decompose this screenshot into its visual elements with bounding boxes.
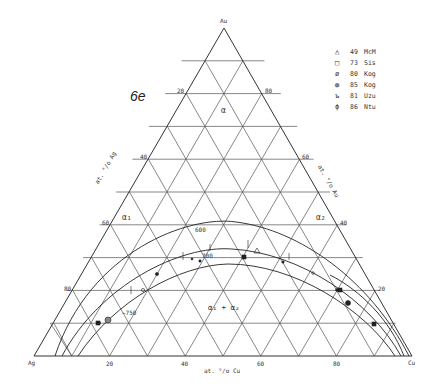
triangle-marker-icon: △	[332, 48, 342, 56]
barred-diamond-marker-icon: ϕ	[332, 103, 342, 111]
square-marker	[242, 255, 246, 259]
legend-author: Sis	[364, 59, 376, 67]
legend-ref: 86	[350, 103, 364, 111]
legend-author: Ntu	[364, 103, 376, 111]
vertex-ag-label: Ag	[28, 360, 35, 366]
legend-ref: 73	[350, 59, 364, 67]
left-tick: 80	[64, 286, 71, 292]
bottom-tick: 60	[257, 361, 264, 367]
isotherm-600-label: 600	[195, 227, 206, 233]
legend-item: □ 73 Sis	[332, 57, 376, 68]
bottom-tick: 20	[106, 361, 113, 367]
filled-circle-marker	[105, 317, 111, 323]
phase-alpha1-label: α₁	[122, 214, 132, 222]
legend-ref: 80	[350, 70, 364, 78]
grid-diag-up	[53, 323, 393, 356]
legend-item: △ 49 McM	[332, 46, 376, 57]
square-marker	[372, 322, 376, 326]
legend: △ 49 McM □ 73 Sis ø 80 Kog ◍ 85 Kog ъ 81…	[332, 46, 376, 112]
vertex-cu-label: Cu	[408, 360, 415, 366]
left-tick: 60	[102, 220, 109, 226]
isotherm-600	[55, 221, 409, 356]
legend-author: Kog	[364, 70, 376, 78]
slashed-circle-marker	[155, 272, 158, 275]
slashed-circle-marker	[141, 288, 144, 291]
phase-alpha-label: α	[221, 107, 226, 115]
legend-author: Uzu	[364, 92, 376, 100]
legend-item: ø 80 Kog	[332, 68, 376, 79]
legend-ref: 85	[350, 81, 364, 89]
phase-alpha2-label: α₂	[316, 214, 326, 222]
bottom-tick: 80	[333, 361, 340, 367]
right-tick: 60	[302, 154, 309, 160]
right-tick: 80	[265, 88, 272, 94]
right-tick: 20	[378, 286, 385, 292]
bottom-tick: 40	[181, 361, 188, 367]
legend-ref: 81	[350, 92, 364, 100]
legend-author: Kog	[364, 81, 376, 89]
legend-item: ъ 81 Uzu	[332, 90, 376, 101]
bottom-axis-title: at. °/o Cu	[204, 368, 240, 374]
isotherm-700-label: 700	[202, 253, 213, 259]
filled-circle-marker	[346, 301, 351, 306]
right-tick: 40	[340, 220, 347, 226]
left-tick: 20	[177, 88, 184, 94]
left-tick: 40	[140, 154, 147, 160]
legend-ref: 49	[350, 48, 364, 56]
legend-item: ϕ 86 Ntu	[332, 101, 376, 112]
legend-author: McM	[364, 48, 376, 56]
filled-circle-marker-icon: ◍	[332, 81, 342, 89]
figure-label: 6e	[130, 88, 146, 104]
vertex-au-label: Au	[220, 18, 227, 24]
legend-item: ◍ 85 Kog	[332, 79, 376, 90]
square-marker-icon: □	[332, 59, 342, 67]
slashed-circle-marker-icon: ø	[332, 70, 342, 78]
isotherm-750-label: ~750	[122, 310, 136, 316]
flag-marker-icon: ъ	[332, 92, 342, 100]
phase-two-phase-label: α₁ + α₂	[208, 304, 240, 312]
isotherm-curves	[55, 221, 409, 356]
